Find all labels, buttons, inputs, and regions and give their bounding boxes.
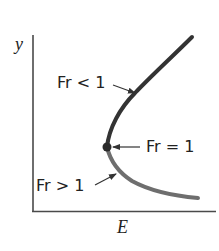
label-fr-equals-1: Fr = 1 (146, 137, 194, 156)
critical-point-dot (103, 143, 112, 152)
arrow-fr-greater-than-1 (95, 174, 116, 185)
label-fr-less-than-1: Fr < 1 (57, 73, 105, 92)
subcritical-branch (107, 37, 192, 147)
label-fr-greater-than-1: Fr > 1 (36, 176, 84, 195)
arrow-fr-less-than-1 (113, 85, 135, 93)
y-axis-label: y (13, 34, 23, 54)
x-axis-label: E (116, 217, 128, 237)
specific-energy-diagram: y E Fr < 1 Fr = 1 Fr > 1 (0, 0, 219, 251)
